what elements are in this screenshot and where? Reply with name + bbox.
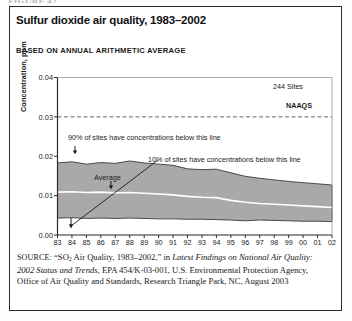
y-tick-label: 0.02 (39, 152, 53, 161)
source-text-2: Air Quality, 1983–2002,” in (72, 252, 172, 262)
upper-band-annotation: 90% of sites have concentrations below t… (68, 133, 221, 142)
y-tick-label: 0.04 (39, 73, 53, 82)
source-text-1: “SO (54, 252, 69, 262)
figure-root: FIGURE 42 Sulfur dioxide air quality, 19… (0, 0, 352, 321)
source-note: SOURCE: “SO2 Air Quality, 1983–2002,” in… (17, 252, 327, 287)
x-tick-label: 02 (323, 238, 341, 247)
naaqs-label: NAAQS (286, 101, 312, 110)
lower-band-annotation: 10% of sites have concentrations below t… (148, 155, 301, 164)
y-tick-label: 0.03 (39, 113, 53, 122)
average-label: Average (94, 173, 121, 182)
source-label: SOURCE: (17, 253, 52, 262)
y-tick-label: 0.01 (39, 191, 53, 200)
sites-count-label: 244 Sites (273, 82, 303, 91)
